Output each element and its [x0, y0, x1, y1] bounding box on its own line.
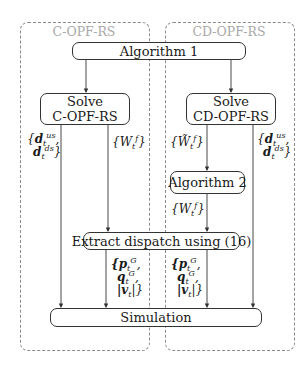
solve-c-opf-rs-node: Solve C-OPF-RS — [40, 93, 130, 125]
label-dispatch-right: {ptG, qtG, |vt|} — [171, 258, 203, 297]
solve-cd-opf-rs-node: Solve CD-OPF-RS — [186, 93, 276, 125]
solve-cd-opf-rs-line2: CD-OPF-RS — [193, 109, 269, 124]
solve-c-opf-rs-line2: C-OPF-RS — [52, 109, 117, 124]
flowchart: C-OPF-RS CD-OPF-RS — [0, 0, 308, 367]
label-right-W-tilde: {W̃tf} — [170, 136, 204, 149]
algorithm-2-label: Algorithm 2 — [168, 175, 246, 190]
algorithm-1-node: Algorithm 1 — [72, 42, 246, 60]
algorithm-2-node: Algorithm 2 — [170, 171, 245, 194]
algorithm-1-label: Algorithm 1 — [120, 44, 198, 59]
label-left-d-us-ds: {dtus, dtds} — [27, 133, 61, 159]
label-right-W: {Wtf} — [171, 203, 205, 216]
label-left-W: {Wtf} — [112, 136, 146, 149]
label-dispatch-left: {ptG, qtG, |vt|} — [111, 258, 143, 297]
extract-dispatch-node: Extract dispatch using (16) — [83, 232, 240, 250]
label-right-d-us-ds: {dtus, dtds} — [257, 133, 291, 159]
solve-cd-opf-rs-line1: Solve — [213, 94, 249, 109]
extract-dispatch-label: Extract dispatch using (16) — [72, 234, 252, 249]
simulation-node: Simulation — [50, 308, 262, 327]
simulation-label: Simulation — [120, 310, 191, 325]
solve-c-opf-rs-line1: Solve — [67, 94, 103, 109]
